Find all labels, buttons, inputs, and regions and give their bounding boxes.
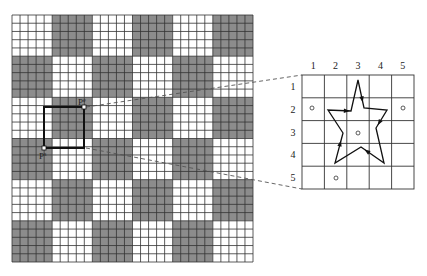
row-label: 4: [291, 149, 296, 160]
checker-block: [213, 221, 253, 262]
row-label: 1: [291, 81, 296, 92]
checker-block: [173, 139, 213, 180]
column-label: 3: [356, 60, 361, 71]
checker-block: [133, 15, 173, 56]
checker-block: [92, 180, 132, 221]
checker-block: [213, 97, 253, 138]
checker-block: [92, 139, 132, 180]
checker-block: [12, 180, 52, 221]
checker-block: [133, 180, 173, 221]
checker-block: [12, 56, 52, 97]
checkerboard-grid: [12, 15, 253, 262]
column-label: 4: [378, 60, 383, 71]
checker-block: [12, 97, 52, 138]
checker-block: [213, 15, 253, 56]
checker-block: [133, 221, 173, 262]
checker-block: [173, 221, 213, 262]
checker-block: [133, 97, 173, 138]
checker-block: [92, 221, 132, 262]
checker-block: [52, 15, 92, 56]
checker-block: [173, 15, 213, 56]
sample-point-marker: [334, 176, 338, 180]
checker-block: [213, 56, 253, 97]
zoomed-grid: 1234512345: [291, 60, 415, 189]
checker-block: [133, 139, 173, 180]
checker-block: [52, 97, 92, 138]
checker-block: [173, 97, 213, 138]
checker-block: [12, 139, 52, 180]
row-label: 2: [291, 104, 296, 115]
checker-block: [173, 180, 213, 221]
checker-block: [213, 180, 253, 221]
start-point-marker: [42, 146, 46, 150]
checker-block: [52, 221, 92, 262]
checker-block: [133, 56, 173, 97]
sample-point-marker: [356, 131, 360, 135]
checker-block: [92, 15, 132, 56]
column-label: 5: [400, 60, 405, 71]
column-label: 2: [333, 60, 338, 71]
sample-point-marker: [310, 106, 314, 110]
checker-block: [12, 15, 52, 56]
checker-block: [92, 56, 132, 97]
checker-block: [52, 56, 92, 97]
checker-block: [92, 97, 132, 138]
checker-block: [52, 139, 92, 180]
checker-block: [52, 180, 92, 221]
row-label: 3: [291, 127, 296, 138]
checker-block: [12, 221, 52, 262]
row-label: 5: [291, 172, 296, 183]
sample-point-marker: [401, 106, 405, 110]
column-label: 1: [311, 60, 316, 71]
figure: PePs 1234512345: [0, 0, 427, 276]
